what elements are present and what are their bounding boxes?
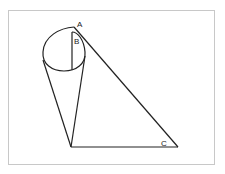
label-a: A xyxy=(77,21,82,29)
geometry-diagram xyxy=(0,0,225,174)
cone-base-circle xyxy=(43,27,85,71)
label-c: C xyxy=(161,140,167,148)
label-b: B xyxy=(74,38,79,46)
cone-left-edge xyxy=(43,60,71,147)
hypotenuse-ac xyxy=(74,27,178,147)
